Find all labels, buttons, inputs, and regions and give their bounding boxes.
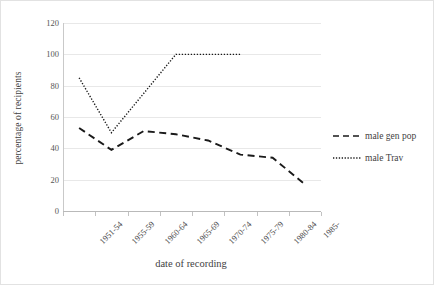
x-axis-tick bbox=[321, 212, 322, 216]
plot-area bbox=[63, 23, 321, 211]
x-axis-ticks bbox=[63, 212, 321, 217]
x-axis-tick-label: 1960-64 bbox=[162, 219, 189, 246]
x-axis-tick bbox=[192, 212, 193, 216]
x-axis-tick bbox=[160, 212, 161, 216]
legend-item-label: male Trav bbox=[365, 153, 403, 163]
x-axis-tick-label: 1965-69 bbox=[194, 219, 221, 246]
dashed-line-icon bbox=[333, 131, 361, 141]
x-axis-tick-label: 1951-54 bbox=[97, 219, 124, 246]
legend-item[interactable]: male Trav bbox=[333, 147, 433, 169]
x-axis-tick bbox=[257, 212, 258, 216]
series-line bbox=[79, 128, 305, 184]
series-lines bbox=[63, 23, 321, 211]
legend-item-label: male gen pop bbox=[365, 131, 416, 141]
y-axis-tick-label: 80 bbox=[29, 81, 59, 91]
y-axis-tick-label: 0 bbox=[29, 206, 59, 216]
x-axis-tick-label: 1980-84 bbox=[291, 219, 318, 246]
x-axis-tick-label: 1970-74 bbox=[226, 219, 253, 246]
chart-container: percentage of recipients 020406080100120… bbox=[0, 0, 434, 285]
x-axis-tick bbox=[289, 212, 290, 216]
y-axis-tick-label: 20 bbox=[29, 175, 59, 185]
x-axis-tick-label: 1955-59 bbox=[130, 219, 157, 246]
y-axis-line bbox=[63, 23, 64, 212]
y-axis-tick-label: 100 bbox=[29, 49, 59, 59]
legend-item[interactable]: male gen pop bbox=[333, 125, 433, 147]
x-axis-tick bbox=[63, 212, 64, 216]
dotted-line-icon bbox=[333, 153, 361, 163]
x-axis-tick bbox=[128, 212, 129, 216]
y-axis-tick-label: 120 bbox=[29, 18, 59, 28]
series-line bbox=[79, 54, 240, 132]
x-axis-title: date of recording bbox=[56, 258, 326, 269]
chart-legend: male gen pop male Trav bbox=[333, 125, 433, 169]
x-axis-tick-label: 1985- bbox=[321, 219, 342, 240]
x-axis-tick bbox=[224, 212, 225, 216]
x-axis-tick-labels: 1951-541955-591960-641965-691970-741975-… bbox=[63, 219, 333, 259]
x-axis-tick bbox=[95, 212, 96, 216]
y-axis-tick-label: 40 bbox=[29, 143, 59, 153]
y-axis-tick-labels: 020406080100120 bbox=[25, 23, 59, 211]
x-axis-tick-label: 1975-79 bbox=[259, 219, 286, 246]
y-axis-tick-label: 60 bbox=[29, 112, 59, 122]
